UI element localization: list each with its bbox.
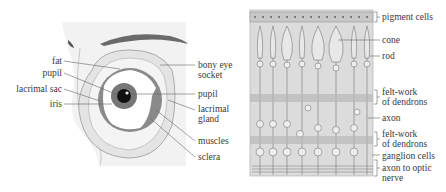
label-felt-work-lower: felt-work of dendrons — [382, 129, 427, 149]
label-sclera: sclera — [198, 152, 220, 162]
label-lacrimal-sac: lacrimal sac — [16, 84, 62, 94]
label-pigment-cells: pigment cells — [382, 12, 433, 22]
label-pupil-right: pupil — [198, 89, 218, 99]
label-felt-work-upper: felt-work of dendrons — [382, 87, 427, 107]
label-axon-to-optic-nerve: axon to optic nerve — [382, 163, 432, 183]
label-axon: axon — [382, 113, 400, 123]
label-pupil-left: pupil — [42, 68, 62, 78]
label-fat: fat — [52, 56, 62, 66]
eye-anatomy-diagram: fat pupil lacrimal sac iris bony eye soc… — [0, 0, 240, 192]
label-bony-eye-socket: bony eye socket — [198, 60, 233, 80]
label-cone: cone — [382, 35, 400, 45]
label-ganglion-cells: ganglion cells — [382, 151, 435, 161]
retina-layers-diagram: pigment cells cone rod felt-work of dend… — [240, 0, 446, 192]
label-lacrimal-gland: lacrimal gland — [198, 104, 229, 124]
label-iris: iris — [50, 99, 62, 109]
label-muscles: muscles — [198, 136, 229, 146]
label-rod: rod — [382, 51, 395, 61]
